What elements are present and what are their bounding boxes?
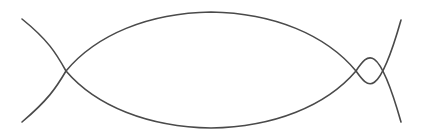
figure-background — [0, 0, 423, 139]
figure-canvas: Two crossing arcs forming a vesica lens — [0, 0, 423, 139]
vesica-figure-svg — [0, 0, 423, 139]
